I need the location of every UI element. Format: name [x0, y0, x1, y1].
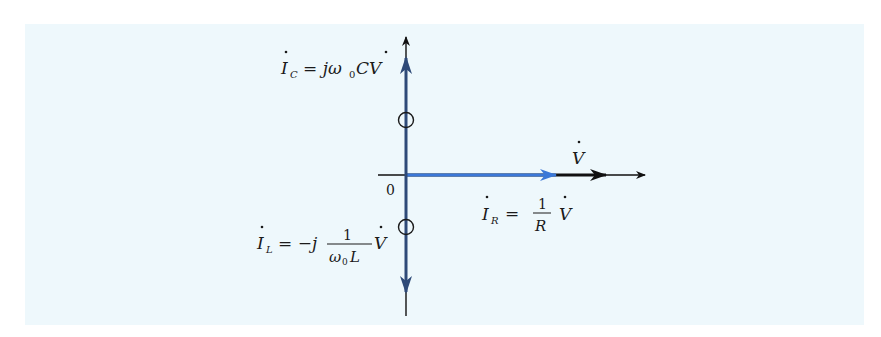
svg-text:V: V [559, 204, 573, 224]
svg-text:= −j: = −j [278, 233, 318, 253]
svg-text:V: V [572, 148, 586, 168]
svg-text:R: R [490, 215, 499, 226]
svg-text:= jω: = jω [303, 58, 342, 78]
svg-text:0: 0 [349, 69, 355, 80]
voltage-label: V [572, 141, 586, 168]
svg-text:I: I [481, 204, 489, 224]
svg-text:L: L [349, 248, 360, 266]
svg-text:L: L [265, 244, 273, 255]
resistor-current-label: I R = 1 R V [481, 196, 573, 235]
svg-text:R: R [534, 217, 546, 235]
svg-text:C: C [290, 69, 298, 80]
capacitor-current-label: I C = jω 0 CV [280, 51, 387, 80]
svg-text:I: I [256, 233, 264, 253]
phasor-diagram: 0 V I R = 1 R V I C = jω 0 CV I L = −j 1… [0, 0, 881, 337]
svg-text:=: = [505, 203, 519, 223]
svg-text:1: 1 [343, 227, 352, 243]
svg-text:0: 0 [342, 257, 348, 267]
svg-text:1: 1 [538, 196, 547, 212]
svg-text:I: I [280, 58, 288, 78]
svg-text:ω: ω [329, 248, 341, 266]
svg-text:V: V [374, 233, 388, 253]
svg-text:CV: CV [356, 58, 383, 78]
inductor-current-label: I L = −j 1 ω 0 L V [256, 226, 388, 267]
origin-label: 0 [386, 182, 395, 198]
